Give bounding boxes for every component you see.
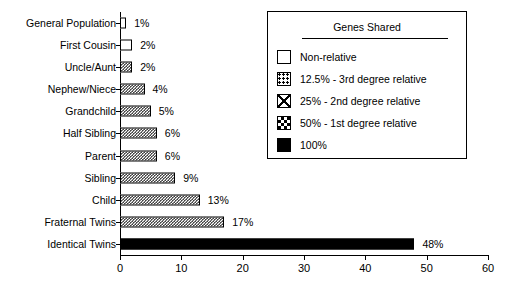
category-label: Half Sibling: [63, 127, 116, 139]
legend-label: 12.5% - 3rd degree relative: [300, 73, 427, 85]
bar-value-label: 13%: [208, 194, 229, 206]
x-axis-tick: [243, 255, 244, 260]
category-label: Sibling: [84, 172, 116, 184]
legend-label: 100%: [300, 139, 327, 151]
bar-row: Sibling9%: [120, 167, 488, 189]
bar: [120, 194, 200, 205]
bar-row: Child13%: [120, 189, 488, 211]
x-axis-tick-label: 10: [175, 262, 187, 274]
x-axis-tick-label: 50: [421, 262, 433, 274]
x-axis-tick-label: 40: [359, 262, 371, 274]
bar-value-label: 5%: [159, 105, 174, 117]
legend-swatch-none: [277, 50, 291, 64]
category-label: Nephew/Niece: [48, 83, 116, 95]
bar-value-label: 6%: [165, 127, 180, 139]
legend-swatch-cross: [277, 94, 291, 108]
category-label: Child: [92, 194, 116, 206]
category-label: Uncle/Aunt: [65, 61, 116, 73]
bar: [120, 62, 132, 73]
bar-value-label: 17%: [232, 216, 253, 228]
category-label: General Population: [26, 17, 116, 29]
legend-item: 50% - 1st degree relative: [277, 112, 460, 134]
bar: [120, 40, 132, 51]
bar: [120, 172, 175, 183]
legend-swatch-checker: [277, 116, 291, 130]
x-axis-tick-label: 20: [237, 262, 249, 274]
legend-item: 25% - 2nd degree relative: [277, 90, 460, 112]
legend-title-underline: [302, 38, 448, 39]
category-label: Identical Twins: [47, 238, 116, 250]
bar-value-label: 48%: [422, 238, 443, 250]
bar: [120, 128, 157, 139]
x-axis-tick: [181, 255, 182, 260]
bar-row: Fraternal Twins17%: [120, 211, 488, 233]
bar-value-label: 9%: [183, 172, 198, 184]
bar: [120, 18, 126, 29]
x-axis-tick-label: 60: [482, 262, 494, 274]
legend-label: 25% - 2nd degree relative: [300, 95, 420, 107]
x-axis-tick: [365, 255, 366, 260]
bar: [120, 150, 157, 161]
bar-row: Identical Twins48%: [120, 233, 488, 255]
legend-item: Non-relative: [277, 46, 460, 68]
legend-title: Genes Shared: [268, 21, 466, 33]
bar: [120, 238, 414, 249]
x-axis-tick-label: 0: [117, 262, 123, 274]
bar-value-label: 2%: [140, 39, 155, 51]
legend-items: Non-relative12.5% - 3rd degree relative2…: [277, 46, 460, 156]
bar: [120, 216, 224, 227]
legend-item: 12.5% - 3rd degree relative: [277, 68, 460, 90]
x-axis-tick: [120, 255, 121, 260]
x-axis-tick: [427, 255, 428, 260]
bar-value-label: 6%: [165, 150, 180, 162]
legend-swatch-solid: [277, 138, 291, 152]
category-label: Grandchild: [65, 105, 116, 117]
bar-value-label: 1%: [134, 17, 149, 29]
legend-item: 100%: [277, 134, 460, 156]
bar-chart: General Population1%First Cousin2%Uncle/…: [0, 0, 506, 288]
x-axis-tick: [488, 255, 489, 260]
category-label: Fraternal Twins: [44, 216, 116, 228]
legend: Genes Shared Non-relative12.5% - 3rd deg…: [267, 11, 467, 159]
category-label: First Cousin: [60, 39, 116, 51]
bar: [120, 84, 145, 95]
bar: [120, 106, 151, 117]
x-axis-tick-label: 30: [298, 262, 310, 274]
bar-value-label: 2%: [140, 61, 155, 73]
bar-value-label: 4%: [153, 83, 168, 95]
legend-swatch-dots: [277, 72, 291, 86]
legend-label: Non-relative: [300, 51, 357, 63]
legend-label: 50% - 1st degree relative: [300, 117, 417, 129]
x-axis-tick: [304, 255, 305, 260]
category-label: Parent: [85, 150, 116, 162]
